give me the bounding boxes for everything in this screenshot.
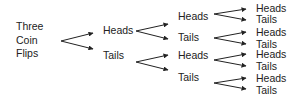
root-label-line: Three [16, 20, 43, 34]
level3-node: Tails [256, 60, 277, 72]
level2-node: Heads [178, 10, 208, 22]
level3-node: Tails [256, 13, 277, 25]
level1-node: Tails [103, 49, 124, 61]
root-label-line: Coin [16, 34, 43, 48]
level2-node: Tails [178, 31, 199, 43]
level3-node: Heads [256, 72, 286, 84]
coin-flip-tree-diagram: Three Coin Flips Heads Tails Heads Tails… [0, 0, 300, 99]
root-label-line: Flips [16, 47, 43, 61]
level3-node: Heads [256, 26, 286, 38]
root-label: Three Coin Flips [16, 20, 43, 61]
level3-node: Heads [256, 48, 286, 60]
level2-node: Tails [178, 71, 199, 83]
level2-node: Heads [178, 49, 208, 61]
tree-arrows [0, 0, 300, 99]
level3-node: Tails [256, 84, 277, 96]
level1-node: Heads [103, 24, 133, 36]
